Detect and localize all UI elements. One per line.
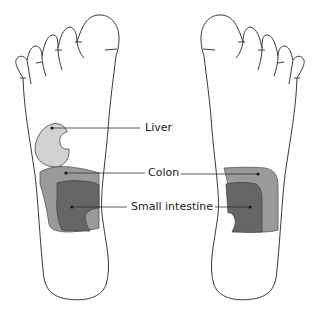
right-foot [201,15,304,300]
label-liver: Liver [143,121,174,134]
label-colon: Colon [146,166,181,179]
feet-illustration [0,0,320,311]
label-small-intestine: Small intestine [129,200,215,213]
reflexology-diagram: Liver Colon Small intestine [0,0,320,311]
right-foot-outline [201,15,304,300]
